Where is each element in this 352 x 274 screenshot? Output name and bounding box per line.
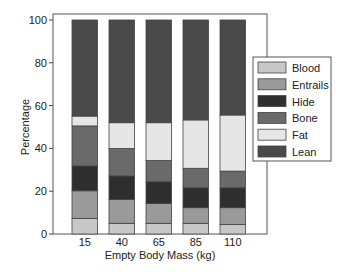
legend-swatch-blood <box>258 62 286 73</box>
y-tick-label: 60 <box>35 100 47 112</box>
x-axis-title: Empty Body Mass (kg) <box>105 249 216 261</box>
bar-segment-fat-110 <box>220 115 246 171</box>
y-axis: 020406080100 <box>29 14 53 240</box>
bar-segment-blood-40 <box>109 223 135 234</box>
bar-segment-bone-110 <box>220 171 246 188</box>
bar-segment-hide-40 <box>109 176 135 199</box>
y-tick-label: 80 <box>35 57 47 69</box>
bar-segment-lean-65 <box>146 20 172 123</box>
bar-segment-lean-110 <box>220 20 246 115</box>
bar-segment-hide-65 <box>146 182 172 204</box>
bar-segment-blood-65 <box>146 223 172 234</box>
bar-segment-fat-65 <box>146 123 172 161</box>
legend-label-hide: Hide <box>292 96 315 108</box>
y-tick-label: 20 <box>35 185 47 197</box>
legend-swatch-hide <box>258 96 286 107</box>
y-tick-label: 100 <box>29 14 47 26</box>
bar-segment-hide-15 <box>72 166 98 191</box>
bar-segment-fat-85 <box>183 120 209 168</box>
x-tick-label: 85 <box>190 236 202 248</box>
x-tick-label: 15 <box>79 236 91 248</box>
bar-segment-entrails-40 <box>109 199 135 223</box>
legend-swatch-fat <box>258 129 286 140</box>
bar-segment-hide-85 <box>183 188 209 208</box>
bar-segment-bone-65 <box>146 160 172 181</box>
legend-label-fat: Fat <box>292 129 308 141</box>
bar-segment-blood-110 <box>220 224 246 234</box>
y-tick-label: 0 <box>41 228 47 240</box>
bar-segment-lean-15 <box>72 20 98 116</box>
legend-label-entrails: Entrails <box>292 79 329 91</box>
bar-segment-blood-85 <box>183 223 209 234</box>
bar-segment-entrails-85 <box>183 208 209 224</box>
bar-segment-entrails-110 <box>220 208 246 225</box>
legend-swatch-bone <box>258 112 286 123</box>
x-tick-label: 110 <box>224 236 242 248</box>
bar-segment-lean-85 <box>183 20 209 120</box>
bar-segment-fat-15 <box>72 116 98 126</box>
legend-swatch-entrails <box>258 79 286 90</box>
stacked-bar-chart: 020406080100 15406585110 Empty Body Mass… <box>0 0 352 274</box>
legend-label-blood: Blood <box>292 62 320 74</box>
x-axis: 15406585110 <box>79 236 242 248</box>
legend-label-lean: Lean <box>292 146 316 158</box>
y-tick-label: 40 <box>35 142 47 154</box>
bar-segment-lean-40 <box>109 20 135 123</box>
bar-segment-bone-15 <box>72 126 98 166</box>
legend-swatch-lean <box>258 146 286 157</box>
bar-segment-bone-40 <box>109 148 135 176</box>
bar-segment-blood-15 <box>72 218 98 234</box>
legend-label-bone: Bone <box>292 112 318 124</box>
x-tick-label: 40 <box>116 236 128 248</box>
legend: BloodEntrailsHideBoneFatLean <box>253 57 331 161</box>
bar-segment-entrails-15 <box>72 191 98 219</box>
bar-segment-entrails-65 <box>146 203 172 223</box>
bar-segment-hide-110 <box>220 188 246 208</box>
bar-segment-bone-85 <box>183 168 209 187</box>
x-tick-label: 65 <box>153 236 165 248</box>
bar-segment-fat-40 <box>109 123 135 149</box>
y-axis-title: Percentage <box>19 99 31 155</box>
